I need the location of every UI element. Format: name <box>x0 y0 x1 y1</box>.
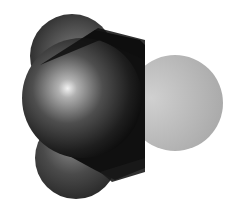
molecule-model <box>0 0 233 209</box>
